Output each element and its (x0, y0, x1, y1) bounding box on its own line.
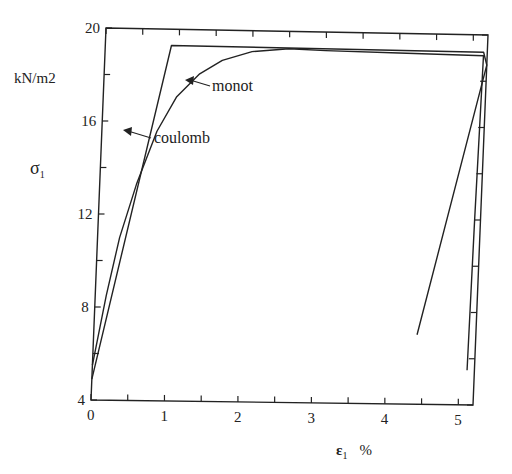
svg-text:coulomb: coulomb (154, 129, 210, 146)
plot-frame (91, 28, 488, 405)
x-tick-label: 2 (234, 409, 242, 425)
arrow-head-icon (123, 127, 132, 136)
x-tick-label: 4 (381, 411, 389, 427)
x-tick-label: 5 (454, 412, 462, 428)
series-coulomb (92, 45, 487, 379)
series-monot (92, 49, 483, 370)
y-tick-label: 8 (81, 299, 89, 315)
y-tick-label: 20 (85, 20, 100, 36)
y-tick-label: 16 (81, 113, 97, 129)
y-tick-label: 12 (78, 206, 93, 222)
y-unit-label: kN/m2 (14, 70, 56, 86)
data-series (92, 45, 487, 379)
annotation-coulomb: coulomb (123, 127, 210, 146)
stress-strain-chart: 01234548121620 kN/m2 σ1 ε1% monot coulom… (0, 0, 512, 474)
y-axis-title: σ1 (30, 158, 45, 180)
svg-text:monot: monot (212, 77, 253, 94)
axis-tick-labels: 01234548121620 (78, 20, 462, 428)
x-tick-label: 0 (87, 407, 95, 423)
x-tick-label: 3 (307, 410, 315, 426)
x-axis-title: ε1% (336, 442, 372, 461)
x-tick-label: 1 (160, 408, 168, 424)
y-tick-label: 4 (78, 392, 86, 408)
axis-ticks (91, 28, 488, 405)
